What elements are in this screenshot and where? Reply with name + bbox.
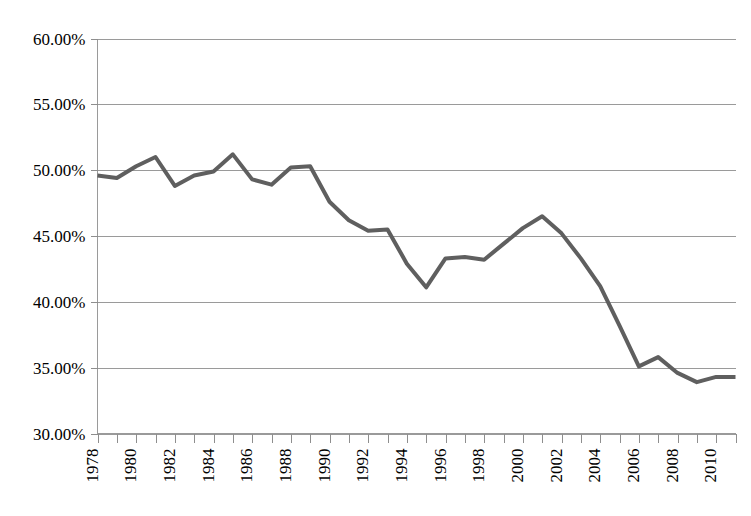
y-tick-label: 35.00% — [33, 359, 85, 378]
chart-canvas: 30.00%35.00%40.00%45.00%50.00%55.00%60.0… — [0, 0, 751, 516]
y-tick-label: 45.00% — [33, 227, 85, 246]
x-tick-label: 2008 — [663, 449, 682, 483]
x-tick-label: 1988 — [276, 449, 295, 483]
x-tick-label: 1994 — [392, 448, 411, 483]
gridlines — [98, 40, 736, 435]
x-tick-label: 1992 — [353, 449, 372, 483]
x-tick-label: 1990 — [315, 449, 334, 483]
x-axis-tick-labels: 1978198019821984198619881990199219941996… — [83, 448, 721, 483]
y-tick-label: 60.00% — [33, 30, 85, 49]
y-tick-label: 40.00% — [33, 293, 85, 312]
x-tick-label: 2002 — [547, 449, 566, 483]
x-tick-label: 1984 — [199, 448, 218, 483]
x-tick-label: 2004 — [585, 448, 604, 483]
x-tick-label: 1982 — [160, 449, 179, 483]
x-tick-label: 1978 — [83, 449, 102, 483]
x-tick-label: 2000 — [508, 449, 527, 483]
data-series-line — [98, 154, 736, 382]
y-tick-label: 30.00% — [33, 425, 85, 444]
y-tick-label: 55.00% — [33, 95, 85, 114]
x-tick-label: 2006 — [624, 449, 643, 483]
x-tick-label: 1996 — [431, 449, 450, 483]
y-tick-label: 50.00% — [33, 161, 85, 180]
x-tick-label: 2010 — [701, 449, 720, 483]
x-tick-label: 1998 — [469, 448, 488, 482]
line-chart: 30.00%35.00%40.00%45.00%50.00%55.00%60.0… — [0, 0, 751, 516]
y-axis-tick-labels: 30.00%35.00%40.00%45.00%50.00%55.00%60.0… — [33, 30, 85, 444]
x-tick-label: 1980 — [121, 449, 140, 483]
x-tick-label: 1986 — [237, 449, 256, 483]
series-line — [98, 154, 736, 382]
x-axis-tickmarks — [91, 40, 737, 443]
